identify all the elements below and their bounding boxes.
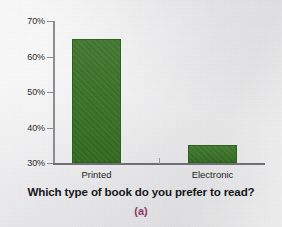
chart-x-axis-title: Which type of book do you prefer to read… [0, 185, 282, 198]
y-tick-40 [47, 128, 54, 129]
y-tick-label-60: 60% [1, 53, 45, 62]
y-tick-label-30: 30% [1, 159, 45, 168]
y-tick-50 [47, 92, 54, 93]
y-tick-label-40-wrap: 40% [0, 124, 45, 133]
bar-printed[interactable] [72, 39, 121, 163]
x-axis-mid-tick [159, 158, 160, 164]
y-tick-label-60-wrap: 60% [0, 53, 45, 62]
y-tick-60 [47, 57, 54, 58]
x-tick-label-printed: Printed [62, 169, 131, 180]
figure-panel-caption: (a) [0, 205, 282, 217]
bar-chart-plot-area: 70% 60% 50% 40% 30% Printed Electronic [0, 0, 282, 175]
x-tick-label-electronic: Electronic [176, 169, 249, 180]
bar-electronic[interactable] [188, 145, 237, 163]
y-tick-label-70: 70% [1, 17, 45, 26]
y-tick-70 [47, 21, 54, 22]
y-axis-line [53, 21, 55, 165]
y-tick-label-30-wrap: 30% [0, 159, 45, 168]
figure-panel: 70% 60% 50% 40% 30% Printed Electronic W… [0, 0, 282, 227]
y-tick-label-50: 50% [1, 88, 45, 97]
y-tick-label-70-wrap: 70% [0, 17, 45, 26]
y-tick-label-50-wrap: 50% [0, 88, 45, 97]
y-tick-label-40: 40% [1, 124, 45, 133]
